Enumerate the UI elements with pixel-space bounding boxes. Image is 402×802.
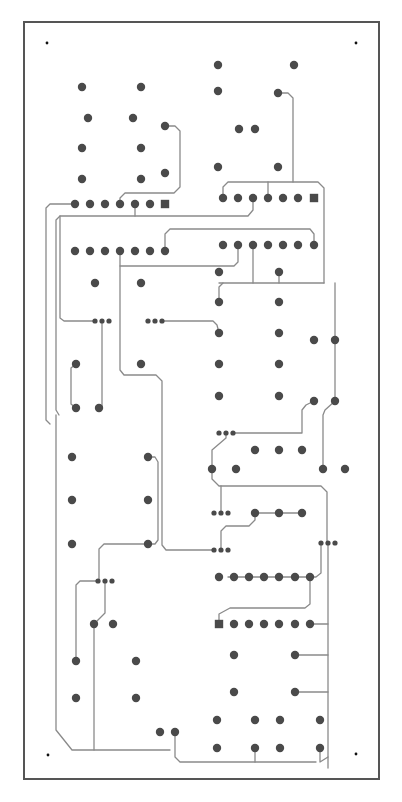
round-pad: [234, 194, 242, 202]
round-pad: [78, 144, 86, 152]
round-pad: [90, 620, 98, 628]
round-pad: [264, 241, 272, 249]
round-pad: [230, 651, 238, 659]
round-pad: [260, 620, 268, 628]
round-pad: [316, 744, 324, 752]
round-pad: [230, 573, 238, 581]
component-pads: [68, 61, 349, 752]
trace: [175, 732, 316, 762]
round-pad: [86, 200, 94, 208]
small-pad: [95, 578, 100, 583]
round-pad: [78, 83, 86, 91]
round-pad: [291, 651, 299, 659]
trace: [94, 581, 105, 624]
small-pad: [230, 430, 235, 435]
trace: [99, 544, 148, 581]
trace: [71, 364, 76, 408]
round-pad: [161, 169, 169, 177]
board-outline: [24, 22, 379, 779]
small-pad: [223, 430, 228, 435]
small-pad: [218, 547, 223, 552]
round-pad: [215, 573, 223, 581]
round-pad: [230, 620, 238, 628]
round-pad: [306, 620, 314, 628]
round-pad: [291, 620, 299, 628]
trace: [212, 433, 226, 469]
small-pad: [211, 510, 216, 515]
round-pad: [249, 194, 257, 202]
small-pad: [102, 578, 107, 583]
trace: [221, 513, 255, 550]
round-pad: [251, 446, 259, 454]
round-pad: [129, 114, 137, 122]
round-pad: [78, 175, 86, 183]
trace: [233, 401, 314, 433]
round-pad: [146, 247, 154, 255]
round-pad: [116, 200, 124, 208]
square-pad: [310, 194, 318, 202]
small-pad: [318, 540, 323, 545]
trace: [56, 198, 253, 415]
round-pad: [290, 61, 298, 69]
round-pad: [137, 144, 145, 152]
round-pad: [264, 194, 272, 202]
round-pad: [91, 279, 99, 287]
square-pad: [161, 200, 169, 208]
round-pad: [208, 465, 216, 473]
round-pad: [230, 688, 238, 696]
round-pad: [86, 247, 94, 255]
small-pad: [325, 540, 330, 545]
round-pad: [214, 61, 222, 69]
round-pad: [215, 329, 223, 337]
round-pad: [279, 194, 287, 202]
round-pad: [331, 397, 339, 405]
round-pad: [291, 573, 299, 581]
round-pad: [68, 453, 76, 461]
round-pad: [276, 716, 284, 724]
round-pad: [298, 446, 306, 454]
small-pad: [99, 318, 104, 323]
trace: [120, 126, 180, 204]
small-pad: [332, 540, 337, 545]
small-pad: [92, 318, 97, 323]
round-pad: [260, 573, 268, 581]
round-pad: [274, 89, 282, 97]
round-pad: [234, 241, 242, 249]
round-pad: [71, 247, 79, 255]
round-pad: [310, 241, 318, 249]
round-pad: [144, 540, 152, 548]
round-pad: [279, 241, 287, 249]
round-pad: [249, 241, 257, 249]
round-pad: [68, 496, 76, 504]
mount-hole-icon: [355, 753, 358, 756]
pcb-board: [0, 0, 402, 802]
round-pad: [232, 465, 240, 473]
small-pad: [225, 510, 230, 515]
trace: [120, 251, 214, 550]
round-pad: [161, 122, 169, 130]
round-pad: [275, 360, 283, 368]
round-pad: [275, 573, 283, 581]
round-pad: [245, 620, 253, 628]
round-pad: [144, 453, 152, 461]
round-pad: [146, 200, 154, 208]
round-pad: [310, 397, 318, 405]
small-pad: [225, 547, 230, 552]
round-pad: [275, 620, 283, 628]
trace: [228, 543, 321, 577]
round-pad: [235, 125, 243, 133]
round-pad: [137, 175, 145, 183]
round-pad: [275, 392, 283, 400]
small-pad: [211, 547, 216, 552]
round-pad: [276, 744, 284, 752]
round-pad: [137, 83, 145, 91]
round-pad: [72, 694, 80, 702]
round-pad: [72, 657, 80, 665]
round-pad: [274, 163, 282, 171]
mount-hole-icon: [47, 754, 50, 757]
round-pad: [171, 728, 179, 736]
round-pad: [131, 247, 139, 255]
round-pad: [310, 336, 318, 344]
round-pad: [84, 114, 92, 122]
trace: [323, 401, 335, 469]
